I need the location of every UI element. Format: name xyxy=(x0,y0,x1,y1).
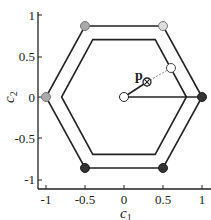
x-tick-label: 1 xyxy=(199,192,206,207)
origin-marker xyxy=(120,93,129,102)
vertex-marker-light xyxy=(159,22,168,31)
vertex-marker-dark xyxy=(159,164,168,173)
y-tick-label: 0.5 xyxy=(19,49,35,64)
x-tick-label: 0.5 xyxy=(155,192,171,207)
y-tick-label: -0.5 xyxy=(14,131,35,146)
y-axis-label: c2 xyxy=(1,91,19,103)
x-tick-label: -0.5 xyxy=(75,192,96,207)
y-tick-label: 1 xyxy=(29,8,36,23)
vertex-marker-dark xyxy=(81,164,90,173)
svg-text:c2: c2 xyxy=(1,91,19,103)
x-tick-label: -1 xyxy=(41,192,52,207)
vertex-marker-gray xyxy=(42,93,51,102)
x-axis-label: c1 xyxy=(120,205,132,220)
p-label: p xyxy=(135,68,143,83)
y-tick-label: -1 xyxy=(24,172,35,187)
x-ticks: -1 -0.5 0 0.5 1 xyxy=(41,185,206,207)
p-point-icon xyxy=(143,78,151,86)
vertex-marker-gray xyxy=(81,22,90,31)
projection-marker xyxy=(167,64,176,73)
vertex-marker-dark xyxy=(198,93,207,102)
y-tick-label: 0 xyxy=(29,90,36,105)
hexagon-diagram: 1 0.5 0 -0.5 -1 -1 -0.5 0 0.5 1 c1 c2 xyxy=(0,0,211,220)
